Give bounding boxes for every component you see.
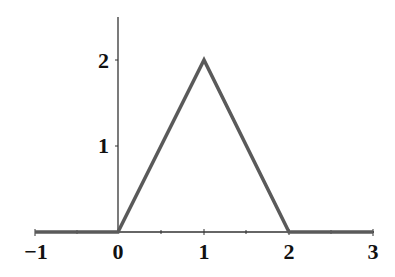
x-tick-label: 2 (284, 239, 295, 264)
y-tick-label: 2 (98, 48, 109, 73)
series-line (35, 60, 373, 232)
x-tick-label: 0 (113, 239, 124, 264)
x-tick-label: 3 (368, 239, 379, 264)
chart: −1 0 1 2 3 1 2 (0, 0, 395, 277)
x-tick-label: 1 (199, 239, 210, 264)
y-tick-label: 1 (98, 133, 109, 158)
x-tick-label: −1 (24, 239, 48, 264)
